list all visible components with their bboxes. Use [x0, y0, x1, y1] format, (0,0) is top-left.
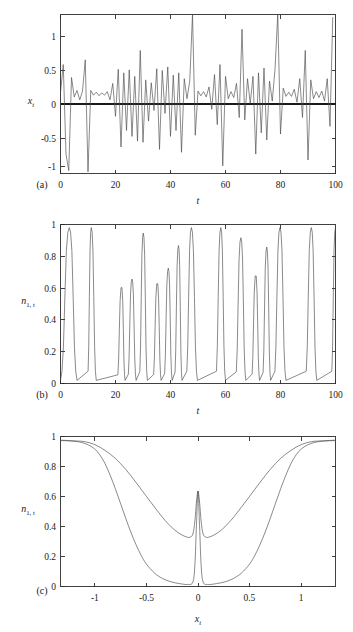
panel-c-xtick-neg0_5: -0.5	[139, 593, 154, 603]
panel-c-xtick-1: 1	[299, 593, 304, 603]
panel-c-yticks	[61, 437, 336, 587]
panel-a-xtick-80: 80	[276, 180, 286, 190]
panel-a-xtick-60: 60	[221, 180, 231, 190]
panel-a-data-group	[61, 14, 333, 172]
panel-c-ytick-1: 1	[51, 432, 56, 442]
panel-c-ytick-0: 0	[51, 582, 56, 592]
panel-a-svg: 1 0.5 0 -0.5 -1 0 20 40 60 80 100 xt t (…	[0, 0, 353, 210]
panel-a-xtick-40: 40	[166, 180, 176, 190]
panel-b-xtick-80: 80	[276, 390, 286, 400]
panel-c-letter: (c)	[36, 585, 47, 597]
panel-a-series-xt	[61, 14, 333, 172]
panel-a-xtick-0: 0	[58, 180, 63, 190]
panel-b-series-n1t	[61, 228, 336, 381]
panel-b-ylabel: n1, t	[21, 295, 35, 308]
panel-a-ytick-0_5: 0.5	[44, 66, 56, 76]
panel-c-frame	[61, 437, 336, 587]
panel-b-xtick-0: 0	[58, 390, 63, 400]
panel-c-ytick-0_2: 0.2	[44, 552, 56, 562]
panel-c-ylabel: n1, t	[21, 503, 35, 516]
panel-b: 1 0.8 0.6 0.4 0.2 0 0 20 40 60 80 100 n1…	[0, 210, 353, 422]
panel-b-svg: 1 0.8 0.6 0.4 0.2 0 0 20 40 60 80 100 n1…	[0, 210, 353, 422]
panel-b-data-group	[61, 228, 336, 381]
panel-c: 1 0.8 0.6 0.4 0.2 0 -1 -0.5 0 0.5 1 n1, …	[0, 422, 353, 632]
panel-a-ytick-neg1: -1	[48, 162, 56, 172]
panel-a-xtick-20: 20	[111, 180, 121, 190]
panel-a-letter: (a)	[36, 179, 47, 191]
panel-c-ytick-0_4: 0.4	[44, 522, 56, 532]
panel-b-ytick-0_6: 0.6	[44, 284, 56, 294]
panel-c-ytick-0_6: 0.6	[44, 492, 56, 502]
panel-c-series-upper-u	[61, 440, 336, 537]
panel-b-xlabel: t	[197, 405, 200, 416]
panel-b-ytick-0_4: 0.4	[44, 315, 56, 325]
panel-b-ytick-0_8: 0.8	[44, 252, 56, 262]
panel-c-xlabel: xt	[194, 613, 202, 626]
panel-c-xtick-0_5: 0.5	[243, 593, 255, 603]
panel-b-ytick-0_2: 0.2	[44, 347, 56, 357]
panel-c-svg: 1 0.8 0.6 0.4 0.2 0 -1 -0.5 0 0.5 1 n1, …	[0, 422, 353, 632]
panel-a: 1 0.5 0 -0.5 -1 0 20 40 60 80 100 xt t (…	[0, 0, 353, 210]
panel-a-ytick-1: 1	[51, 32, 56, 42]
panel-b-xtick-60: 60	[221, 390, 231, 400]
panel-c-ytick-0_8: 0.8	[44, 462, 56, 472]
panel-c-data-group	[61, 440, 336, 584]
panel-c-xtick-neg1: -1	[91, 593, 99, 603]
panel-a-xlabel: t	[197, 195, 200, 206]
panel-b-frame	[61, 225, 336, 384]
panel-c-xticks	[95, 437, 301, 587]
panel-b-yticks	[61, 225, 336, 384]
panel-a-yticks	[61, 36, 336, 166]
panel-b-xtick-40: 40	[166, 390, 176, 400]
panel-b-xtick-20: 20	[111, 390, 121, 400]
panel-b-ytick-0: 0	[51, 379, 56, 389]
panel-a-ytick-0: 0	[51, 100, 56, 110]
panel-b-xticks	[61, 225, 336, 384]
panel-c-series-lower-bathtub	[61, 441, 336, 585]
panel-c-xtick-0: 0	[196, 593, 201, 603]
panel-b-xtick-100: 100	[328, 390, 343, 400]
panel-a-ylabel: xt	[27, 95, 35, 108]
panel-a-xtick-100: 100	[328, 180, 343, 190]
panel-a-ytick-neg0_5: -0.5	[41, 134, 56, 144]
panel-b-letter: (b)	[36, 389, 48, 401]
panel-b-ytick-1: 1	[51, 220, 56, 230]
figure-container: 1 0.5 0 -0.5 -1 0 20 40 60 80 100 xt t (…	[0, 0, 353, 632]
